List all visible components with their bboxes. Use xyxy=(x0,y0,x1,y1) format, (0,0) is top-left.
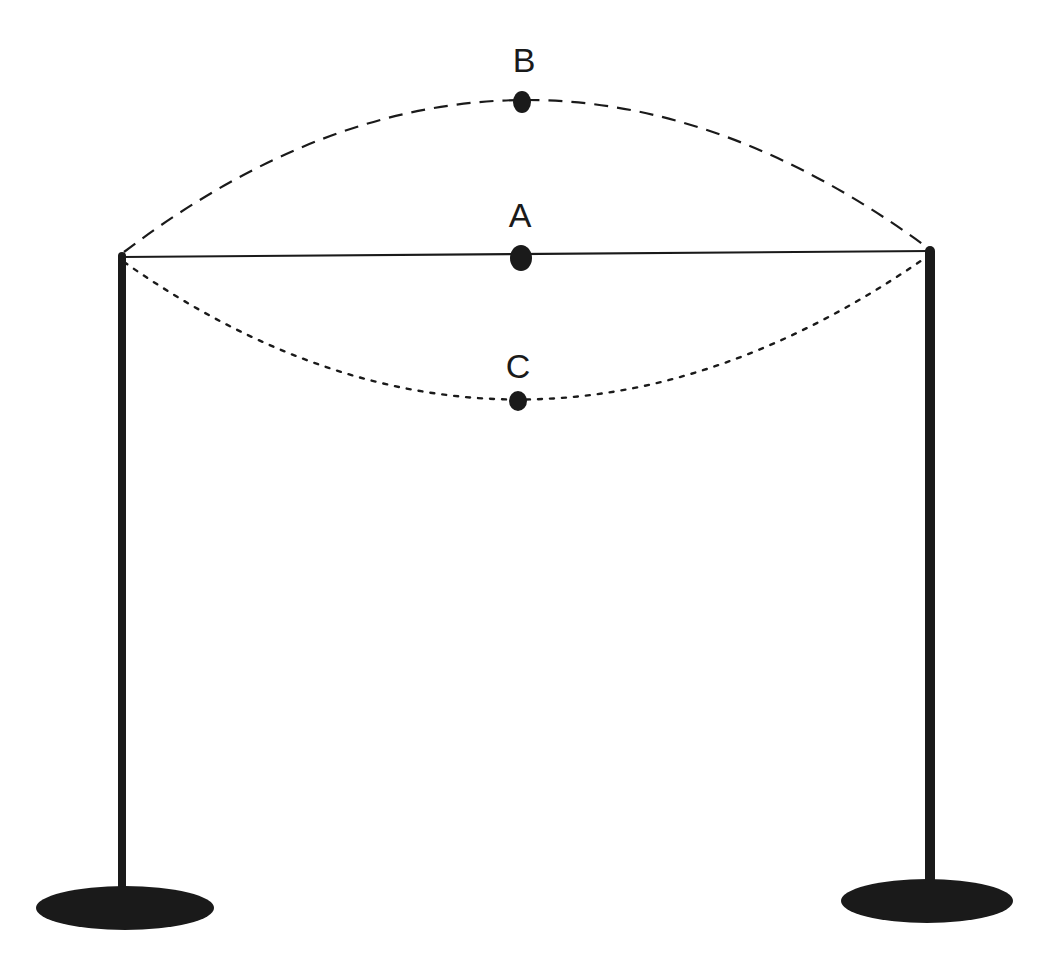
point-b-marker xyxy=(513,91,531,113)
right-pole-shaft xyxy=(925,246,935,891)
left-pole xyxy=(36,252,214,930)
vibrating-string-diagram: B A C xyxy=(0,0,1050,968)
point-a-marker xyxy=(510,245,532,271)
left-pole-shaft xyxy=(118,252,126,897)
label-b: B xyxy=(513,41,536,79)
label-c: C xyxy=(506,347,531,385)
right-pole xyxy=(841,246,1013,923)
point-c-marker xyxy=(509,391,527,411)
label-a: A xyxy=(509,196,532,234)
left-pole-base xyxy=(36,886,214,930)
right-pole-base xyxy=(841,879,1013,923)
